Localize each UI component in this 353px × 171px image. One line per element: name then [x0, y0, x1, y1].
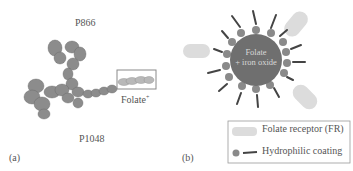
core-label: Folate + iron oxide	[230, 47, 282, 67]
hydrophilic-coating-legend-icon	[243, 152, 257, 153]
legend-hydrophilic-coating: Hydrophilic coating	[262, 145, 342, 156]
bead-legend-icon	[233, 150, 240, 157]
legend-folate-receptor: Folate receptor (FR)	[262, 123, 344, 134]
folate-receptor-legend-icon	[232, 127, 257, 136]
panel-label-b: (b)	[182, 152, 194, 163]
